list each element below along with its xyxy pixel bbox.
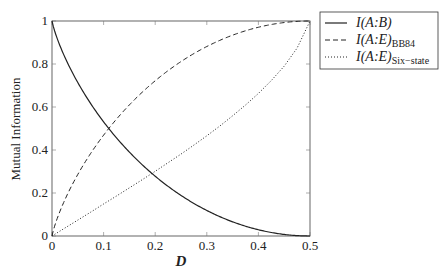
x-tick-label: 0: [49, 238, 56, 253]
y-tick-label: 0: [42, 228, 49, 243]
y-tick-label: 0.8: [32, 56, 48, 71]
y-tick-label: 0.4: [32, 142, 49, 157]
series-line-0: [52, 21, 310, 236]
y-tick-label: 0.2: [32, 185, 48, 200]
series-line-2: [52, 21, 310, 236]
data-lines: [52, 21, 310, 236]
x-tick-label: 0.5: [302, 238, 318, 253]
x-tick-label: 0.3: [199, 238, 215, 253]
mutual-information-chart: 00.10.20.30.40.500.20.40.60.81 D Mutual …: [0, 0, 441, 279]
y-tick-label: 0.6: [32, 99, 49, 114]
x-tick-label: 0.4: [250, 238, 267, 253]
legend-label: I(A:B): [355, 15, 392, 31]
x-axis-label: D: [175, 253, 187, 269]
plot-axes: [52, 21, 310, 236]
x-tick-label: 0.2: [147, 238, 163, 253]
plot-frame: [52, 21, 310, 236]
y-tick-label: 1: [42, 13, 49, 28]
series-line-1: [52, 21, 310, 236]
y-axis-label: Mutual Information: [8, 77, 23, 180]
legend: I(A:B)I(A:E)BB84I(A:E)Six−state: [320, 12, 438, 69]
axis-ticks: 00.10.20.30.40.500.20.40.60.81: [32, 13, 318, 253]
x-tick-label: 0.1: [95, 238, 111, 253]
